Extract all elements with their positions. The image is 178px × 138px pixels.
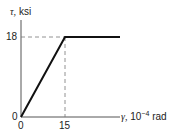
y-tick-18: 18 (6, 32, 17, 42)
y-axis-label: τ, ksi (10, 7, 31, 17)
x-tick-0: 0 (18, 121, 24, 131)
y-tick-0: 0 (12, 112, 18, 122)
x-tick-15: 15 (59, 121, 70, 131)
x-axis-label: γ, 10−4 rad (121, 112, 167, 122)
stress-strain-curve (21, 37, 120, 117)
